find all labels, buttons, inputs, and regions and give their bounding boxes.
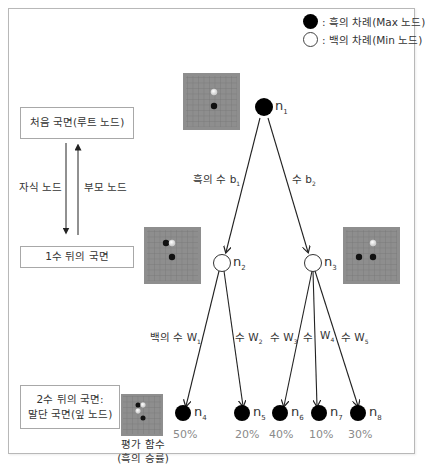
board-n2 bbox=[144, 227, 201, 284]
node-n4-label: n4 bbox=[194, 404, 207, 422]
edge-label-w2: 수 W2 bbox=[235, 329, 263, 345]
eval-line2: (흑의 승률) bbox=[112, 451, 174, 465]
value-n6: 40% bbox=[269, 428, 293, 441]
node-n5-label: n5 bbox=[253, 404, 266, 422]
board-leaf bbox=[121, 394, 163, 436]
node-n2 bbox=[214, 255, 231, 272]
edge-label-w4-prefix: 수 bbox=[303, 329, 313, 344]
value-n4: 50% bbox=[173, 428, 197, 441]
eval-function-caption: 평가 함수 (흑의 승률) bbox=[112, 437, 174, 465]
node-n5 bbox=[234, 405, 250, 421]
node-n1-label: n1 bbox=[275, 98, 288, 116]
edge-label-w5: 수 W5 bbox=[341, 329, 369, 345]
edge-label-w3: 수 W3 bbox=[270, 329, 298, 345]
node-n6-label: n6 bbox=[291, 404, 304, 422]
edge-label-b2: 수 b2 bbox=[292, 171, 316, 187]
node-n7 bbox=[311, 405, 327, 421]
edge-n3-n7 bbox=[313, 271, 317, 406]
value-n8: 30% bbox=[348, 428, 372, 441]
value-n7: 10% bbox=[309, 428, 333, 441]
board-n3 bbox=[343, 227, 400, 284]
node-n2-label: n2 bbox=[233, 254, 246, 272]
node-n8-label: n8 bbox=[369, 404, 382, 422]
node-n4 bbox=[175, 405, 191, 421]
edge-label-b1: 흑의 수 b1 bbox=[193, 171, 240, 187]
node-n1 bbox=[255, 98, 273, 116]
node-n3-label: n3 bbox=[324, 254, 337, 272]
value-n5: 20% bbox=[235, 428, 259, 441]
board-root bbox=[183, 73, 240, 130]
eval-line1: 평가 함수 bbox=[112, 437, 174, 451]
edge-label-w1: 백의 수 W1 bbox=[150, 329, 201, 345]
node-n6 bbox=[272, 405, 288, 421]
edge-label-w4: W4 bbox=[320, 329, 334, 343]
node-n8 bbox=[350, 405, 366, 421]
node-n3 bbox=[305, 255, 322, 272]
node-n7-label: n7 bbox=[330, 404, 343, 422]
